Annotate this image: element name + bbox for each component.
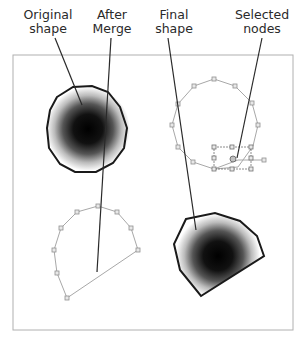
leader-selected-nodes: [237, 38, 262, 158]
leader-final-shape: [168, 38, 196, 230]
final-shape: [174, 213, 264, 298]
after-merge-outline: [52, 204, 140, 300]
original-shape: [46, 86, 130, 172]
diagram-canvas: [0, 0, 303, 343]
canvas-frame: [13, 55, 293, 330]
